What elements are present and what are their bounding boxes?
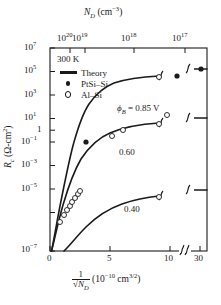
left-axis-ticks [50, 48, 55, 251]
legend-temperature: 300 K [57, 54, 108, 64]
annotation-curve-040: 0.40 [124, 205, 140, 214]
legend-item-theory: Theory [57, 67, 108, 78]
x-axis-fraction: 1 √ND [72, 270, 90, 290]
top-tick-label-3: 1017 [172, 34, 188, 43]
data-point [83, 139, 88, 144]
y-tick-label-0: 107 [24, 43, 36, 52]
x-tick-label-3: 30 [194, 254, 203, 263]
data-point [78, 189, 83, 194]
legend-label-theory: Theory [79, 68, 107, 78]
data-point [121, 128, 126, 133]
legend: 300 K Theory PtSi–Si Al–Si [57, 54, 108, 100]
legend-item-al-si: Al–Si [57, 89, 108, 100]
data-point [110, 134, 115, 139]
data-point [157, 122, 162, 127]
y-tick-label-3: 101 [24, 113, 36, 122]
legend-label-ptsi-si: PtSi–Si [79, 79, 108, 89]
top-axis-title: ND (cm−3) [84, 8, 122, 18]
curve-break-markers [158, 64, 194, 201]
figure-container: 1020 1019 1018 1017 ND (cm−3) 107 105 10… [0, 0, 221, 305]
break-marker-060 [158, 113, 194, 128]
x-axis-break-marker [179, 245, 191, 255]
data-point [58, 220, 63, 225]
bottom-axis-ticks [50, 246, 200, 251]
top-axis-ticks [70, 48, 185, 53]
data-point [165, 113, 170, 118]
data-point [174, 73, 179, 78]
top-tick-label-0: 1020 [57, 34, 73, 43]
x-tick-label-1: 5 [107, 254, 112, 263]
y-tick-label-4: 1 [37, 125, 42, 134]
break-marker-085 [158, 64, 194, 81]
annotation-phi-b: ϕB = 0.85 V [117, 104, 160, 113]
top-tick-label-2: 1018 [121, 34, 137, 43]
y-tick-label-6: 10−3 [21, 160, 37, 169]
x-tick-label-0: 0 [47, 254, 52, 263]
y-tick-label-5: 10−1 [21, 137, 37, 146]
y-tick-label-1: 105 [24, 66, 36, 75]
curve-phi-040 [64, 196, 159, 251]
y-axis-title: Rc (Ω-cm2) [4, 119, 14, 175]
bottom-axis-title: 1 √ND (10−10 cm3/2) [72, 270, 140, 290]
curve-phi-060 [52, 123, 160, 251]
data-point [62, 213, 67, 218]
filled-circle-marker-icon [57, 81, 79, 86]
data-point [157, 75, 162, 80]
annotation-curve-060: 0.60 [119, 148, 135, 157]
y-tick-label-2: 103 [24, 90, 36, 99]
legend-item-ptsi-si: PtSi–Si [57, 78, 108, 89]
open-circle-marker-icon [57, 91, 79, 98]
top-tick-label-1: 1019 [72, 34, 88, 43]
line-swatch-icon [57, 71, 79, 73]
y-tick-label-8: 10−7 [21, 245, 37, 254]
data-point [198, 66, 203, 71]
data-point [157, 195, 162, 200]
x-tick-label-2: 10 [164, 254, 173, 263]
y-tick-label-7: 10−5 [21, 184, 37, 193]
break-marker-040 [158, 185, 194, 201]
legend-label-al-si: Al–Si [79, 90, 102, 100]
